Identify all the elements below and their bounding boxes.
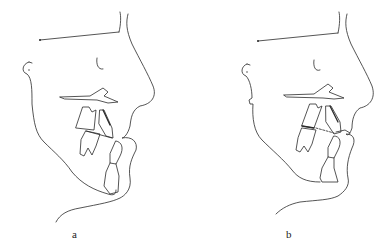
panel-b-orbit-mark (314, 60, 320, 70)
panel-b-sn-line (258, 33, 338, 41)
panel-b-label: b (286, 228, 292, 240)
panel-a-label: a (72, 228, 77, 240)
figure-canvas (0, 0, 392, 249)
panel-a-skull-outline (23, 62, 116, 195)
panel-a-orbit-mark (97, 58, 103, 69)
panel-a-upper-incisor-edge (103, 110, 110, 125)
panel-b-skull-outline (242, 64, 320, 182)
panel-a-soft-tissue-profile (56, 14, 154, 222)
panel-a-ear-mark (29, 62, 32, 63)
panel-a-nasal-bone (119, 12, 121, 32)
panel-b-nasal-bone (338, 12, 340, 33)
panel-a-palatal-plane (60, 88, 118, 103)
panel-b-symphysis (320, 157, 338, 182)
panel-b-upper-incisor-edge (330, 106, 338, 122)
panel-a-lower-incisor (110, 141, 122, 164)
panel-b-molar-occlusal-contact (302, 126, 314, 128)
panel-b-lower-incisor (328, 136, 340, 158)
panel-b-lower-molar (296, 128, 316, 152)
panel-b-soft-tissue-profile (276, 14, 373, 214)
panel-a-sella-point (39, 39, 41, 41)
panel-b-ear-mark (247, 64, 250, 65)
panel-a-symphysis (104, 163, 119, 194)
panel-a-upper-molar (76, 107, 96, 130)
panel-b-tracing (242, 12, 373, 214)
panel-a-upper-incisor (99, 110, 113, 138)
panel-b-upper-incisor (326, 106, 341, 134)
panel-a-lower-molar (80, 131, 100, 156)
panel-a-porion-point (28, 69, 29, 70)
panel-b-palatal-plane (284, 84, 344, 99)
panel-b-upper-molar (302, 104, 322, 128)
panel-a-tracing (23, 12, 154, 222)
panel-a-sn-line (40, 32, 119, 40)
panel-b-sella-point (257, 40, 259, 42)
panel-b-porion-point (246, 71, 247, 72)
